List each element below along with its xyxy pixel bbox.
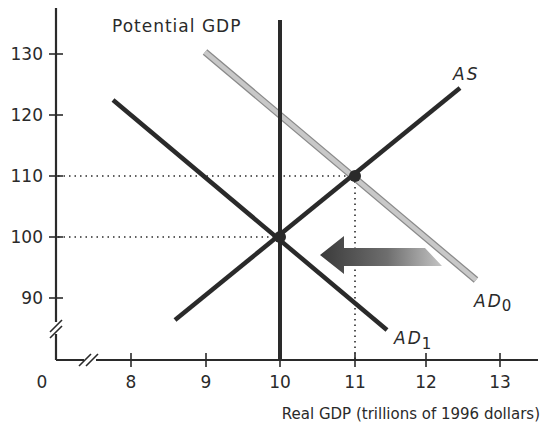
ad1-label: AD1 bbox=[393, 328, 433, 353]
ad0-label-main: AD bbox=[473, 291, 503, 311]
ad0-label-sub: 0 bbox=[502, 297, 514, 315]
x-tick-label: 13 bbox=[489, 372, 511, 392]
as-curve bbox=[175, 88, 460, 320]
potential-gdp-label: Potential GDP bbox=[112, 16, 241, 36]
as-label: AS bbox=[452, 64, 479, 84]
ad0-label: AD0 bbox=[473, 291, 513, 315]
y-tick-label: 130 bbox=[11, 44, 43, 64]
equilibrium-point-initial bbox=[349, 170, 361, 182]
x-tick-label: 9 bbox=[201, 372, 212, 392]
origin-label: 0 bbox=[37, 372, 48, 392]
shift-left-arrow-icon bbox=[320, 236, 442, 274]
ad1-curve bbox=[113, 100, 387, 330]
x-tick-label: 12 bbox=[415, 372, 437, 392]
y-tick-label: 120 bbox=[11, 105, 43, 125]
x-tick-label: 8 bbox=[126, 372, 137, 392]
ad-as-chart: 130 120 110 100 90 0 8 9 10 11 12 13 Rea… bbox=[0, 0, 549, 439]
ad1-label-main: AD bbox=[393, 328, 423, 348]
axes bbox=[56, 8, 538, 360]
x-tick-label: 11 bbox=[344, 372, 366, 392]
x-tick-label: 10 bbox=[269, 372, 291, 392]
y-tick-label: 90 bbox=[21, 288, 43, 308]
ad1-label-sub: 1 bbox=[422, 335, 434, 353]
equilibrium-point-new bbox=[274, 231, 286, 243]
y-tick-label: 100 bbox=[11, 227, 43, 247]
x-axis-title: Real GDP (trillions of 1996 dollars) bbox=[282, 405, 540, 423]
y-tick-label: 110 bbox=[11, 166, 43, 186]
